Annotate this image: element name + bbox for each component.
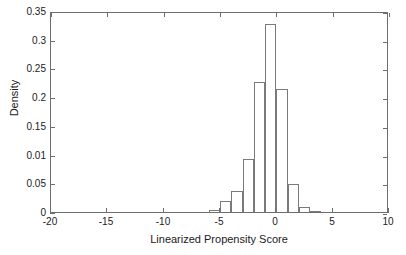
y-axis-tick-right xyxy=(383,128,387,129)
histogram-bar xyxy=(220,201,231,212)
y-axis-tick xyxy=(50,12,55,13)
y-axis-tick xyxy=(50,127,55,128)
y-axis-title: Density xyxy=(8,58,20,138)
histogram-bar xyxy=(288,184,299,212)
x-axis-tick-top xyxy=(107,13,108,17)
x-axis-tick-label: 10 xyxy=(368,216,406,227)
y-axis-tick xyxy=(50,41,55,42)
x-axis-tick xyxy=(219,208,220,213)
histogram-bar xyxy=(265,24,276,212)
y-axis-tick-label: 0.05 xyxy=(2,179,46,189)
x-axis-tick xyxy=(332,208,333,213)
histogram-bar xyxy=(243,159,254,212)
y-axis-tick-right xyxy=(383,13,387,14)
y-axis-tick-label: 0.3 xyxy=(2,36,46,46)
x-axis-tick-top xyxy=(164,13,165,17)
x-axis-title: Linearized Propensity Score xyxy=(50,233,388,246)
y-axis-tick xyxy=(50,156,55,157)
x-axis-tick-label: -15 xyxy=(86,216,126,227)
y-axis-tick-right xyxy=(383,214,387,215)
y-axis-tick-right xyxy=(383,99,387,100)
plot-area xyxy=(50,12,388,213)
x-axis-tick-label: 0 xyxy=(255,216,295,227)
y-axis-tick xyxy=(50,69,55,70)
x-axis-tick-label: 5 xyxy=(312,216,352,227)
x-axis-tick-top xyxy=(276,13,277,17)
histogram-bars xyxy=(51,13,387,212)
x-axis-tick xyxy=(388,208,389,213)
y-axis-tick-right xyxy=(383,42,387,43)
histogram-bar xyxy=(276,89,287,212)
histogram-bar xyxy=(254,82,265,212)
histogram-bar xyxy=(231,191,242,212)
x-axis-tick-top xyxy=(51,13,52,17)
x-axis-tick-top xyxy=(333,13,334,17)
y-axis-tick-label: 0.35 xyxy=(2,7,46,17)
histogram-bar xyxy=(310,211,321,212)
histogram-figure: 00.050.010.150.20.250.30.35 -20-15-10-50… xyxy=(0,0,406,255)
y-axis-tick-right xyxy=(383,157,387,158)
y-axis-tick xyxy=(50,213,55,214)
x-axis-tick-label: -20 xyxy=(30,216,70,227)
x-axis-tick xyxy=(275,208,276,213)
y-axis-tick xyxy=(50,184,55,185)
x-axis-tick xyxy=(106,208,107,213)
x-axis-tick xyxy=(50,208,51,213)
y-axis-tick-right xyxy=(383,70,387,71)
x-axis-tick-top xyxy=(389,13,390,17)
histogram-bar xyxy=(299,207,310,212)
y-axis-tick-label: 0.01 xyxy=(2,151,46,161)
x-axis-tick xyxy=(163,208,164,213)
x-axis-tick-top xyxy=(220,13,221,17)
x-axis-tick-label: -10 xyxy=(143,216,183,227)
x-axis-tick-label: -5 xyxy=(199,216,239,227)
y-axis-tick-right xyxy=(383,185,387,186)
y-axis-tick xyxy=(50,98,55,99)
